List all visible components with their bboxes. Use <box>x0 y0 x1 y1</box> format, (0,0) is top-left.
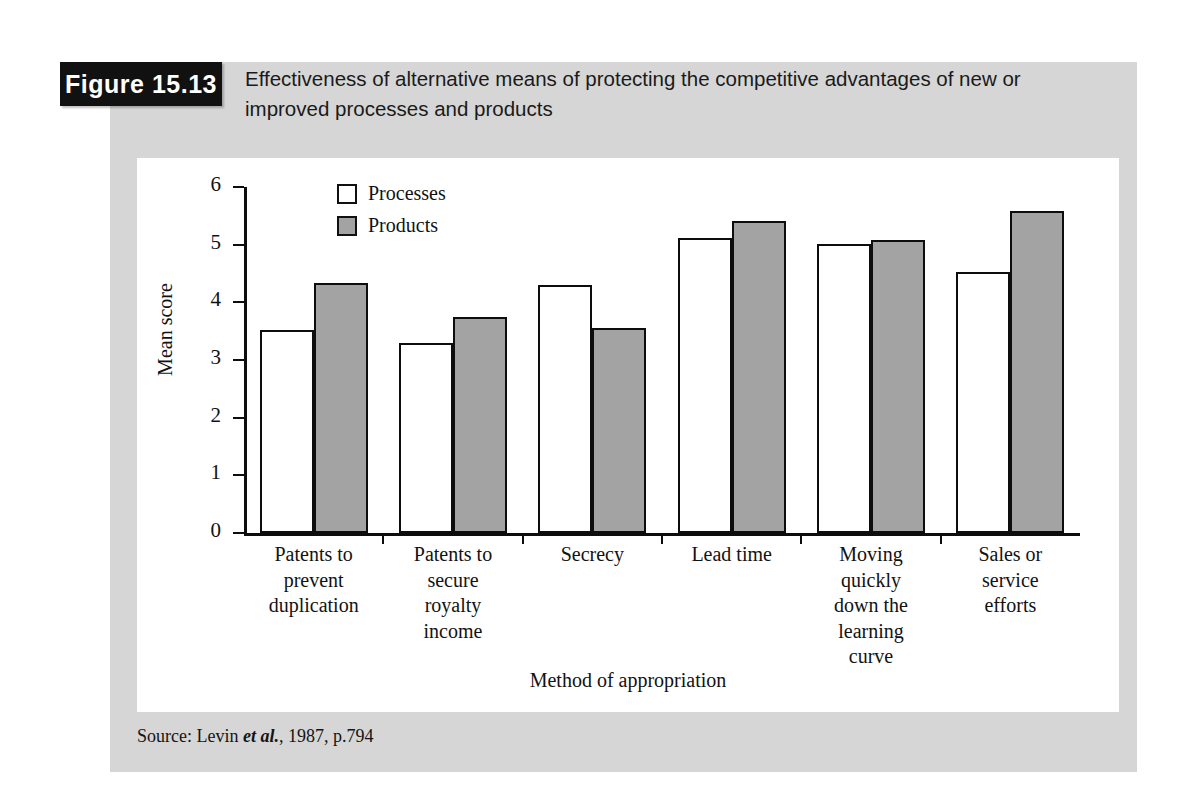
chart-panel: 0123456 Mean score Processes Products Pa… <box>137 158 1119 712</box>
y-tick-0 <box>233 532 244 534</box>
y-tick-label-2: 2 <box>187 403 221 428</box>
category-label-1: Patents tosecureroyaltyincome <box>383 542 522 644</box>
bar-products-0 <box>314 283 368 533</box>
bar-processes-0 <box>260 330 314 533</box>
category-label-0: Patents topreventduplication <box>244 542 383 619</box>
source-prefix: Source: Levin <box>137 726 243 746</box>
bar-processes-3 <box>678 238 732 533</box>
y-tick-6 <box>233 186 244 188</box>
bar-products-3 <box>732 221 786 533</box>
y-tick-2 <box>233 417 244 419</box>
figure-number-tab: Figure 15.13 <box>60 62 222 106</box>
y-tick-label-4: 4 <box>187 287 221 312</box>
category-label-line: Patents to <box>383 542 522 568</box>
bar-products-1 <box>453 317 507 533</box>
category-label-line: efforts <box>941 593 1080 619</box>
category-label-line: down the <box>801 593 940 619</box>
bar-products-5 <box>1010 211 1064 533</box>
bar-processes-5 <box>956 272 1010 533</box>
category-label-line: royalty <box>383 593 522 619</box>
x-axis-title: Method of appropriation <box>137 669 1119 692</box>
source-suffix: , 1987, p.794 <box>279 726 374 746</box>
category-label-line: Patents to <box>244 542 383 568</box>
category-label-3: Lead time <box>662 542 801 568</box>
bar-processes-1 <box>399 343 453 533</box>
y-tick-3 <box>233 359 244 361</box>
category-label-2: Secrecy <box>523 542 662 568</box>
category-label-line: Sales or <box>941 542 1080 568</box>
category-label-line: Moving <box>801 542 940 568</box>
category-label-line: curve <box>801 644 940 670</box>
category-label-line: secure <box>383 568 522 594</box>
category-label-line: service <box>941 568 1080 594</box>
source-italic: et al. <box>243 726 279 746</box>
y-tick-label-0: 0 <box>187 518 221 543</box>
bar-products-4 <box>871 240 925 533</box>
category-label-5: Sales orserviceefforts <box>941 542 1080 619</box>
bar-products-2 <box>592 328 646 533</box>
source-note: Source: Levin et al., 1987, p.794 <box>137 726 373 747</box>
category-label-line: learning <box>801 619 940 645</box>
category-label-line: income <box>383 619 522 645</box>
category-label-line: prevent <box>244 568 383 594</box>
category-label-line: Secrecy <box>523 542 662 568</box>
category-label-line: duplication <box>244 593 383 619</box>
category-label-line: Lead time <box>662 542 801 568</box>
bar-processes-2 <box>538 285 592 533</box>
category-label-4: Movingquicklydown thelearningcurve <box>801 542 940 670</box>
category-label-line: quickly <box>801 568 940 594</box>
y-tick-1 <box>233 474 244 476</box>
bars-layer <box>244 187 1080 533</box>
y-tick-label-5: 5 <box>187 230 221 255</box>
y-tick-label-3: 3 <box>187 345 221 370</box>
y-tick-5 <box>233 244 244 246</box>
bar-chart: 0123456 Mean score Processes Products Pa… <box>137 158 1119 712</box>
y-tick-label-1: 1 <box>187 460 221 485</box>
figure-caption: Effectiveness of alternative means of pr… <box>245 64 1045 124</box>
y-tick-label-6: 6 <box>187 172 221 197</box>
y-axis-title: Mean score <box>154 210 177 450</box>
figure-container: 0123456 Mean score Processes Products Pa… <box>110 62 1137 772</box>
y-tick-4 <box>233 301 244 303</box>
bar-processes-4 <box>817 244 871 533</box>
